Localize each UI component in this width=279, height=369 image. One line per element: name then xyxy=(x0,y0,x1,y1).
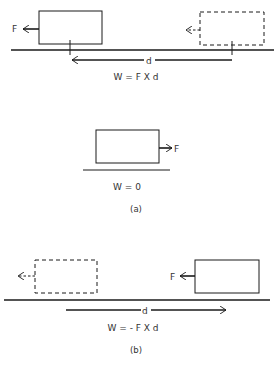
block-initial-dashed xyxy=(200,12,264,45)
force-label: F xyxy=(12,24,17,34)
block-initial-dashed xyxy=(35,260,97,293)
panel-a: F W = 0 (a) xyxy=(83,130,179,214)
panel-caption: (a) xyxy=(130,204,142,214)
work-diagram: F d W = F X d F W = 0 (a) F xyxy=(0,0,279,369)
panel-caption: (b) xyxy=(130,345,142,355)
work-equation: W = F X d xyxy=(114,72,159,82)
work-equation: W = 0 xyxy=(113,182,141,192)
panel-top: F d W = F X d xyxy=(11,11,274,82)
distance-label: d xyxy=(146,56,152,66)
force-label: F xyxy=(174,144,179,154)
block-final xyxy=(39,11,102,44)
distance-label: d xyxy=(142,306,148,316)
force-label: F xyxy=(170,272,175,282)
panel-b: F d W = - F X d (b) xyxy=(4,260,270,355)
block-final xyxy=(195,260,259,293)
block-stationary xyxy=(96,130,159,163)
work-equation: W = - F X d xyxy=(107,323,158,333)
